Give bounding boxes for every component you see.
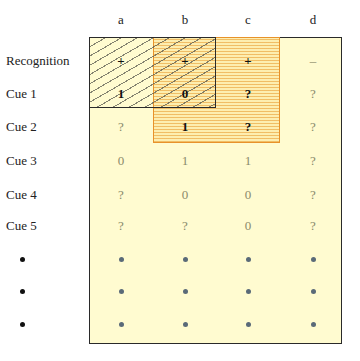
column-header-c: c: [228, 12, 268, 28]
ellipsis-dot: [183, 289, 188, 294]
ellipsis-dot: [311, 289, 316, 294]
cell-cue1-c: ?: [233, 85, 263, 103]
cell-cue2-d: ?: [298, 118, 328, 136]
cell-cue4-c: 0: [233, 186, 263, 204]
ellipsis-dot: [246, 289, 251, 294]
cell-cue5-a: ?: [106, 217, 136, 235]
cell-cue4-b: 0: [170, 186, 200, 204]
cell-cue2-a: ?: [106, 118, 136, 136]
cell-cue1-b: 0: [170, 85, 200, 103]
row-label-cue-2: Cue 2: [6, 118, 37, 136]
ellipsis-dot: [246, 257, 251, 262]
ellipsis-dot: [311, 322, 316, 327]
column-header-d: d: [293, 12, 333, 28]
cell-recognition-d: –: [298, 52, 328, 70]
cell-cue5-c: 0: [233, 217, 263, 235]
row-label-cue-1: Cue 1: [6, 85, 37, 103]
ellipsis-dot: [119, 322, 124, 327]
cell-recognition-a: +: [106, 52, 136, 70]
cell-cue4-d: ?: [298, 186, 328, 204]
row-label-cue-3: Cue 3: [6, 152, 37, 170]
row-label-ellipsis-dot: [20, 289, 25, 294]
ellipsis-dot: [183, 257, 188, 262]
cell-cue4-a: ?: [106, 186, 136, 204]
ellipsis-dot: [119, 257, 124, 262]
row-label-recognition: Recognition: [6, 52, 70, 70]
cell-recognition-b: +: [170, 52, 200, 70]
cell-cue3-c: 1: [233, 152, 263, 170]
row-label-ellipsis-dot: [20, 257, 25, 262]
ellipsis-dot: [246, 322, 251, 327]
cell-cue2-b: 1: [170, 118, 200, 136]
column-header-a: a: [101, 12, 141, 28]
row-label-cue-5: Cue 5: [6, 217, 37, 235]
cell-cue3-b: 1: [170, 152, 200, 170]
cell-cue1-a: 1: [106, 85, 136, 103]
cell-recognition-c: +: [233, 52, 263, 70]
row-label-ellipsis-dot: [20, 322, 25, 327]
cell-cue3-a: 0: [106, 152, 136, 170]
row-label-cue-4: Cue 4: [6, 186, 37, 204]
ellipsis-dot: [119, 289, 124, 294]
cell-cue2-c: ?: [233, 118, 263, 136]
cell-cue1-d: ?: [298, 85, 328, 103]
cell-cue3-d: ?: [298, 152, 328, 170]
cell-cue5-b: ?: [170, 217, 200, 235]
ellipsis-dot: [311, 257, 316, 262]
ellipsis-dot: [183, 322, 188, 327]
column-header-b: b: [165, 12, 205, 28]
cell-cue5-d: ?: [298, 217, 328, 235]
